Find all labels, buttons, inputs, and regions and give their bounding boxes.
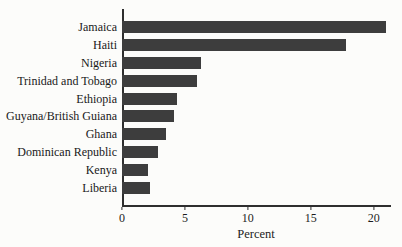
x-tick-mark: [373, 207, 374, 211]
bar-row: Ethiopia: [0, 90, 402, 108]
x-tick-mark: [310, 207, 311, 211]
bar: [122, 164, 148, 176]
bar-chart-figure: JamaicaHaitiNigeriaTrinidad and TobagoEt…: [0, 0, 402, 247]
bar-track: [122, 146, 390, 158]
bar-track: [122, 75, 390, 87]
category-label: Ethiopia: [0, 93, 122, 105]
category-label: Dominican Republic: [0, 146, 122, 158]
bar-row: Trinidad and Tobago: [0, 72, 402, 90]
bar-track: [122, 110, 390, 122]
category-label: Kenya: [0, 164, 122, 176]
x-axis-title: Percent: [122, 228, 390, 241]
bar-track: [122, 182, 390, 194]
bar: [122, 110, 174, 122]
x-tick-mark: [121, 207, 122, 211]
bar-row: Liberia: [0, 179, 402, 197]
bar-track: [122, 21, 390, 33]
bar: [122, 182, 150, 194]
bar-track: [122, 93, 390, 105]
bar: [122, 146, 158, 158]
bar: [122, 57, 201, 69]
x-tick-label: 10: [242, 212, 254, 224]
x-tick-label: 5: [182, 212, 188, 224]
bar-row: Jamaica: [0, 18, 402, 36]
x-tick-label: 20: [368, 212, 380, 224]
category-label: Jamaica: [0, 21, 122, 33]
category-label: Ghana: [0, 128, 122, 140]
bar-row: Nigeria: [0, 54, 402, 72]
bar-track: [122, 128, 390, 140]
bar: [122, 93, 177, 105]
bar-row: Kenya: [0, 161, 402, 179]
category-label: Trinidad and Tobago: [0, 75, 122, 87]
bar: [122, 75, 197, 87]
category-label: Guyana/British Guiana: [0, 110, 122, 122]
bar: [122, 128, 166, 140]
bar-row: Haiti: [0, 36, 402, 54]
x-tick-label: 0: [119, 212, 125, 224]
x-tick-mark: [184, 207, 185, 211]
category-label: Nigeria: [0, 57, 122, 69]
x-tick-label: 15: [305, 212, 317, 224]
bar-row: Guyana/British Guiana: [0, 107, 402, 125]
bar-track: [122, 57, 390, 69]
x-tick-mark: [247, 207, 248, 211]
category-label: Haiti: [0, 39, 122, 51]
bars-container: JamaicaHaitiNigeriaTrinidad and TobagoEt…: [0, 10, 402, 197]
bar-track: [122, 39, 390, 51]
bar: [122, 21, 386, 33]
bar-row: Ghana: [0, 125, 402, 143]
bar: [122, 39, 346, 51]
bar-row: Dominican Republic: [0, 143, 402, 161]
bar-track: [122, 164, 390, 176]
category-label: Liberia: [0, 182, 122, 194]
